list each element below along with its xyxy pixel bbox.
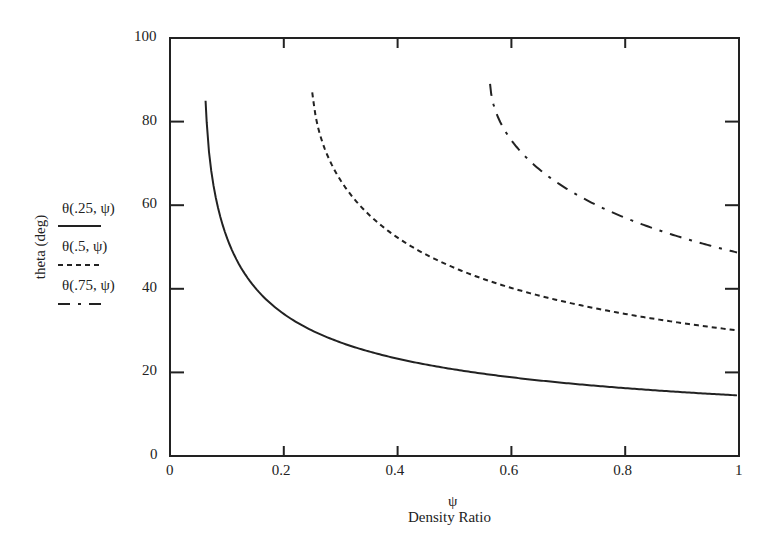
y-tick-label: 0	[150, 446, 158, 463]
legend-swatches	[55, 210, 175, 350]
data-series	[206, 84, 739, 395]
series-line-2	[312, 92, 739, 330]
axis-ticks	[170, 38, 739, 456]
x-tick-label: 0.4	[386, 462, 405, 479]
x-axis-title: Density Ratio	[408, 509, 491, 526]
x-tick-label: 0.8	[613, 462, 632, 479]
x-tick-label: 0	[166, 462, 174, 479]
y-tick-label: 80	[142, 112, 157, 129]
series-line-3	[490, 84, 737, 252]
y-tick-label: 20	[142, 362, 157, 379]
y-axis-title: theta (deg)	[32, 215, 49, 280]
plot-frame	[170, 38, 739, 456]
x-tick-label: 1	[735, 462, 743, 479]
x-axis-symbol: ψ	[448, 493, 457, 510]
x-tick-label: 0.6	[499, 462, 518, 479]
series-line-1	[206, 101, 737, 396]
y-tick-label: 100	[134, 28, 157, 45]
x-tick-label: 0.2	[272, 462, 291, 479]
